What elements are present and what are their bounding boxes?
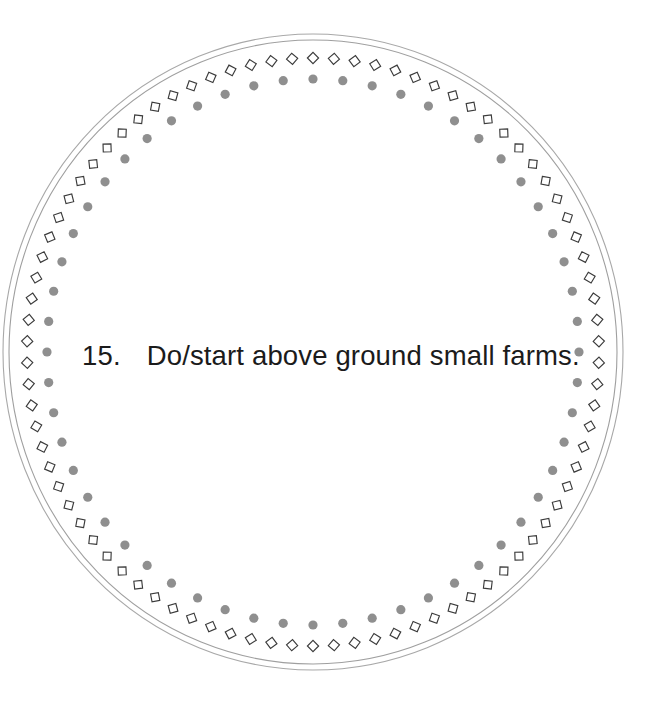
diamond-segment: [560, 479, 575, 494]
ring-dot: [534, 493, 543, 502]
diamond-segment: [538, 173, 554, 189]
diamond-segment: [25, 292, 38, 305]
ring-dot: [424, 593, 433, 602]
diamond-segment: [368, 58, 381, 71]
diamond-segment: [265, 55, 278, 68]
diamond-segment: [51, 210, 66, 225]
decorative-circle-card: 15.Do/start above ground small farms.: [0, 0, 662, 709]
ring-dot: [83, 202, 92, 211]
ring-dot: [83, 493, 92, 502]
ring-dot: [573, 378, 582, 387]
diamond-segment: [51, 479, 66, 494]
diamond-segment: [42, 460, 57, 475]
diamond-segment: [525, 156, 541, 172]
ring-dot: [44, 317, 53, 326]
diamond-segment: [549, 191, 564, 206]
second-thin-circle: [9, 40, 617, 664]
diamond-segment: [85, 532, 101, 548]
diamond-segment: [165, 601, 180, 616]
diamond-segment: [511, 548, 527, 564]
ring-dot: [559, 257, 568, 266]
diamond-chain-ring: [21, 52, 604, 651]
diamond-segment: [583, 420, 597, 434]
ring-dot: [57, 257, 66, 266]
diamond-segment: [427, 611, 442, 626]
diamond-segment: [445, 601, 460, 616]
diamond-segment: [588, 399, 601, 412]
diamond-segment: [307, 52, 318, 63]
ring-dot: [49, 287, 58, 296]
diamond-segment: [549, 497, 564, 512]
diamond-segment: [591, 314, 603, 326]
ring-dot: [396, 605, 405, 614]
ring-dot: [368, 614, 377, 623]
ring-dot: [424, 101, 433, 110]
ring-dot: [193, 593, 202, 602]
ring-dot: [42, 347, 51, 356]
diamond-segment: [569, 230, 584, 245]
ring-dot: [249, 81, 258, 90]
diamond-segment: [23, 378, 35, 390]
ring-dot: [249, 614, 258, 623]
ring-dot: [548, 466, 557, 475]
ring-dot: [568, 287, 577, 296]
ring-dot: [167, 579, 176, 588]
ring-dot: [279, 619, 288, 628]
ring-dot: [516, 177, 525, 186]
ring-dot: [308, 620, 317, 629]
diamond-segment: [480, 577, 496, 593]
diamond-segment: [569, 460, 584, 475]
ring-dot: [100, 177, 109, 186]
ring-dot: [143, 134, 152, 143]
ring-dot: [368, 81, 377, 90]
diamond-segment: [25, 399, 38, 412]
ring-dot: [193, 101, 202, 110]
ring-dot: [279, 76, 288, 85]
ring-dot: [574, 347, 583, 356]
diamond-segment: [184, 78, 199, 93]
diamond-segment: [463, 589, 479, 605]
diamond-segment: [244, 632, 257, 645]
diamond-segment: [583, 271, 597, 285]
ring-dot: [534, 202, 543, 211]
second-thin-circle: [9, 40, 617, 664]
diamond-segment: [538, 515, 554, 531]
diamond-segment: [21, 357, 33, 369]
diamond-segment: [560, 210, 575, 225]
ring-dot: [69, 466, 78, 475]
diamond-segment: [73, 173, 89, 189]
outer-thin-circle: [3, 34, 623, 670]
diamond-segment: [29, 420, 43, 434]
diamond-segment: [204, 70, 219, 85]
diamond-segment: [184, 611, 199, 626]
diamond-segment: [588, 292, 601, 305]
ring-dot: [167, 116, 176, 125]
diamond-segment: [165, 88, 180, 103]
diamond-segment: [348, 636, 361, 649]
diamond-segment: [61, 191, 76, 206]
ring-dot: [450, 116, 459, 125]
ring-dot: [496, 154, 505, 163]
ring-dot: [69, 229, 78, 238]
diamond-segment: [496, 125, 512, 141]
diamond-segment: [99, 548, 115, 564]
diamond-segment: [286, 639, 298, 651]
ring-dot: [49, 408, 58, 417]
ring-dot: [338, 76, 347, 85]
diamond-segment: [224, 63, 238, 77]
ring-dot: [44, 378, 53, 387]
outer-thin-circle: [3, 34, 623, 670]
diamond-segment: [42, 230, 57, 245]
diamond-segment: [511, 140, 527, 156]
gray-dot-ring: [42, 74, 583, 629]
diamond-segment: [593, 357, 605, 369]
ring-dot: [496, 540, 505, 549]
ring-dot: [57, 438, 66, 447]
diamond-segment: [591, 378, 603, 390]
diamond-segment: [265, 636, 278, 649]
diamond-segment: [577, 250, 591, 264]
diamond-segment: [445, 88, 460, 103]
diamond-segment: [73, 515, 89, 531]
ring-dot: [573, 317, 582, 326]
diamond-segment: [21, 335, 33, 347]
